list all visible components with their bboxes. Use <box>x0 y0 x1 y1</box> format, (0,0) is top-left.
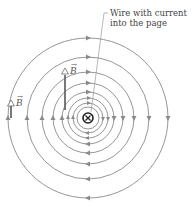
annotation-line-2: into the page <box>110 18 187 28</box>
b-label-inner: → B <box>70 66 77 76</box>
annotation-line-1: Wire with current <box>110 8 187 18</box>
wire-into-page-icon <box>83 113 93 123</box>
wire-annotation: Wire with current into the page <box>110 8 187 28</box>
b-vector-inner <box>62 68 69 110</box>
b-label-left: → B <box>16 98 23 108</box>
field-lines <box>0 0 193 208</box>
field-diagram: Wire with current into the page → B → B <box>0 0 193 208</box>
